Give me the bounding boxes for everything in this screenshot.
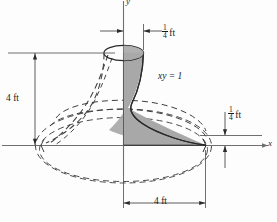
top-dimension-numerator: 1 <box>162 24 168 32</box>
top-dimension-label: 1 4 ft <box>162 24 175 41</box>
right-dimension-denominator: 4 <box>228 113 234 122</box>
right-dim-arrow-up <box>223 146 227 152</box>
bottom-dim-arrow-left <box>124 201 130 205</box>
bottom-dimension-label: 4 ft <box>154 197 167 207</box>
surface-left-silhouette <box>46 54 104 144</box>
revolution-solid-figure: y x 1 4 ft 4 ft 1 4 ft 4 ft xy = 1 <box>0 0 277 222</box>
right-dim-arrow-down <box>223 129 227 135</box>
right-dimension-numerator: 1 <box>228 106 234 114</box>
right-dimension-unit: ft <box>235 110 241 120</box>
top-dimension-denominator: 4 <box>162 31 168 40</box>
dimension-left-four-ft <box>8 53 115 145</box>
top-dimension-fraction: 1 4 <box>162 24 168 41</box>
y-axis-label: y <box>126 0 130 6</box>
top-dim-arrow-left <box>144 29 150 33</box>
left-dim-arrow-bottom <box>33 139 37 145</box>
top-dimension-unit: ft <box>169 28 175 38</box>
left-dim-arrow-top <box>33 54 37 60</box>
left-profile-dash <box>50 55 108 143</box>
right-dimension-label: 1 4 ft <box>228 106 241 123</box>
bottom-dim-arrow-right <box>199 201 205 205</box>
left-dimension-label: 4 ft <box>6 94 19 104</box>
top-dim-arrow-right <box>117 29 123 33</box>
curve-equation-label: xy = 1 <box>158 72 182 82</box>
shaded-region-main <box>124 53 206 145</box>
x-axis-label: x <box>268 139 272 148</box>
right-dimension-fraction: 1 4 <box>228 106 234 123</box>
